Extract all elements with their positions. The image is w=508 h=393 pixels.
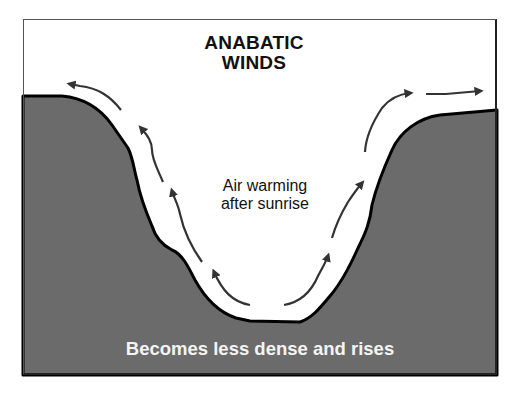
air-warming-line-1: Air warming bbox=[200, 177, 330, 195]
air-warming-line-2: after sunrise bbox=[200, 195, 330, 213]
rises-caption: Becomes less dense and rises bbox=[0, 339, 508, 359]
anabatic-winds-diagram: ANABATIC WINDS Air warming after sunrise… bbox=[0, 0, 508, 393]
air-warming-label: Air warming after sunrise bbox=[200, 177, 330, 213]
title-line-1: ANABATIC bbox=[0, 33, 508, 53]
title-line-2: WINDS bbox=[0, 53, 508, 73]
diagram-title: ANABATIC WINDS bbox=[0, 33, 508, 73]
